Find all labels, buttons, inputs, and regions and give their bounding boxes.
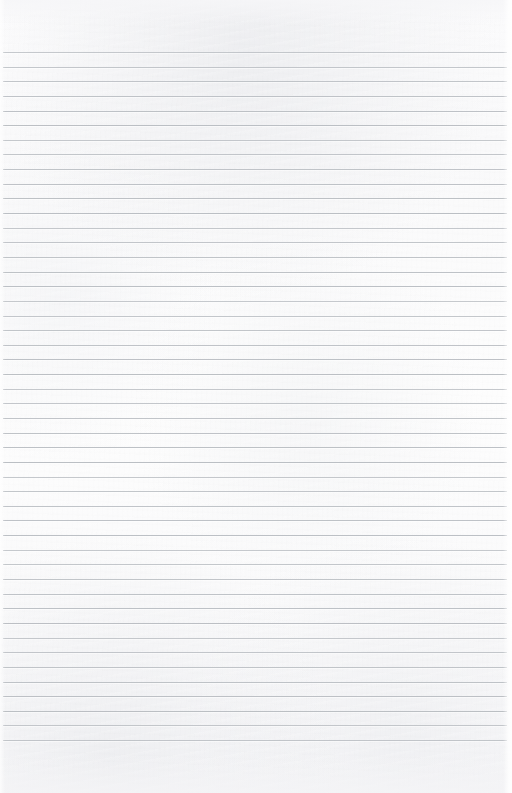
rule-line (3, 359, 507, 360)
rule-line (3, 550, 507, 551)
rule-line (3, 682, 507, 683)
writing-area[interactable] (0, 52, 512, 741)
rule-line (3, 579, 507, 580)
rule-line (3, 506, 507, 507)
rule-line (3, 228, 507, 229)
rule-line (3, 111, 507, 112)
rule-line (3, 272, 507, 273)
rule-line (3, 169, 507, 170)
rule-line (3, 594, 507, 595)
rule-line (3, 725, 507, 726)
ruled-lines-group (0, 52, 512, 741)
rule-line (3, 81, 507, 82)
rule-line (3, 301, 507, 302)
rule-line (3, 433, 507, 434)
rule-line (3, 52, 507, 53)
rule-line (3, 374, 507, 375)
rule-line (3, 198, 507, 199)
rule-line (3, 213, 507, 214)
rule-line (3, 286, 507, 287)
rule-line (3, 623, 507, 624)
rule-line (3, 638, 507, 639)
rule-line (3, 96, 507, 97)
rule-line (3, 608, 507, 609)
rule-line (3, 418, 507, 419)
rule-line (3, 154, 507, 155)
rule-line (3, 652, 507, 653)
rule-line (3, 389, 507, 390)
bottom-margin (0, 741, 512, 793)
rule-line (3, 242, 507, 243)
top-margin (0, 0, 512, 52)
rule-line (3, 403, 507, 404)
rule-line (3, 491, 507, 492)
rule-line (3, 535, 507, 536)
rule-line (3, 140, 507, 141)
rule-line (3, 564, 507, 565)
notebook-page (0, 0, 512, 793)
rule-line (3, 345, 507, 346)
rule-line (3, 462, 507, 463)
rule-line (3, 477, 507, 478)
rule-line (3, 696, 507, 697)
rule-line (3, 711, 507, 712)
rule-line (3, 520, 507, 521)
rule-line (3, 125, 507, 126)
rule-line (3, 667, 507, 668)
rule-line (3, 447, 507, 448)
rule-line (3, 330, 507, 331)
rule-line (3, 257, 507, 258)
rule-line (3, 67, 507, 68)
rule-line (3, 184, 507, 185)
rule-line (3, 316, 507, 317)
